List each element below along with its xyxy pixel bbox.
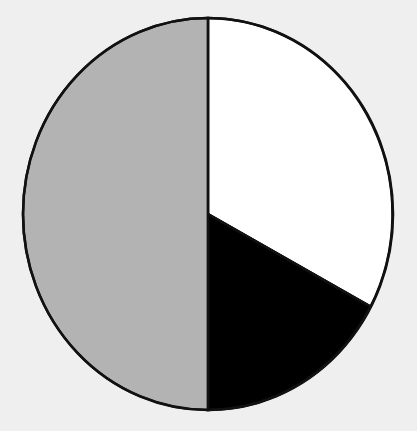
pie-chart-canvas xyxy=(0,0,417,431)
pie-chart-figure xyxy=(0,0,417,431)
